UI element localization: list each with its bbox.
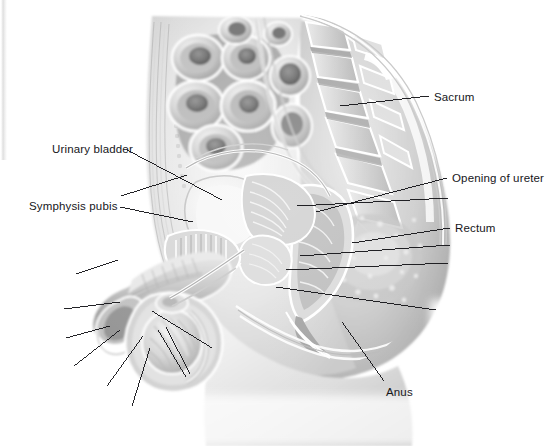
label-rectum: Rectum xyxy=(455,222,496,235)
label-sacrum: Sacrum xyxy=(434,91,475,104)
label-opening-of-ureter: Opening of ureter xyxy=(452,172,544,185)
label-anus: Anus xyxy=(386,386,413,399)
anatomy-figure-page: SacrumUrinary bladderOpening of ureterSy… xyxy=(0,0,560,446)
label-urinary-bladder: Urinary bladder xyxy=(52,143,133,156)
label-symphysis-pubis: Symphysis pubis xyxy=(29,200,118,213)
